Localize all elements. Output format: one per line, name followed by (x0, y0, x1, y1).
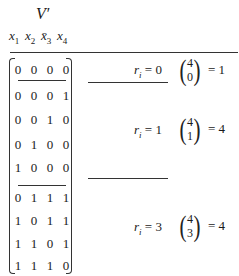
group-rule (18, 80, 66, 81)
cell: 1 (12, 213, 24, 229)
weight-label: ri = 0 (134, 62, 162, 80)
group-rule (18, 185, 66, 186)
cell: 1 (60, 236, 72, 252)
cell: 0 (44, 236, 56, 252)
set-title: V′ (36, 5, 49, 23)
cell: 0 (60, 112, 72, 128)
label-rule (88, 82, 168, 83)
cell: 0 (44, 137, 56, 153)
cell: 1 (28, 236, 40, 252)
cell: 0 (28, 213, 40, 229)
cell: 0 (44, 88, 56, 104)
cell: 0 (28, 62, 40, 78)
cell: 1 (12, 160, 24, 176)
cell: 0 (60, 258, 72, 274)
cell: 1 (12, 258, 24, 274)
header-x3-bar: x̄3 (41, 28, 51, 46)
weight-label: ri = 1 (134, 122, 162, 140)
cell: 1 (28, 137, 40, 153)
cell: 0 (28, 160, 40, 176)
cell: 0 (12, 62, 24, 78)
cell: 0 (12, 112, 24, 128)
binomial-coefficient: (43) = 4 (178, 211, 225, 241)
cell: 1 (44, 213, 56, 229)
cell: 1 (28, 258, 40, 274)
cell: 1 (60, 88, 72, 104)
cell: 0 (60, 160, 72, 176)
cell: 0 (12, 190, 24, 206)
cell: 1 (44, 190, 56, 206)
cell: 1 (60, 213, 72, 229)
cell: 0 (12, 137, 24, 153)
cell: 0 (28, 88, 40, 104)
header-x1: x1 (9, 28, 19, 46)
cell: 0 (12, 88, 24, 104)
cell: 1 (44, 258, 56, 274)
binomial-coefficient: (41) = 4 (178, 114, 225, 144)
binomial-coefficient: (40) = 1 (178, 55, 225, 85)
label-rule (88, 178, 168, 179)
cell: 1 (28, 190, 40, 206)
cell: 0 (28, 112, 40, 128)
cell: 1 (44, 112, 56, 128)
header-x2: x2 (25, 28, 35, 46)
weight-label: ri = 3 (134, 219, 162, 237)
header-x4: x4 (57, 28, 67, 46)
cell: 0 (44, 160, 56, 176)
header-rule (10, 52, 238, 53)
cell: 1 (60, 190, 72, 206)
cell: 0 (60, 62, 72, 78)
cell: 1 (12, 236, 24, 252)
cell: 0 (60, 137, 72, 153)
cell: 0 (44, 62, 56, 78)
